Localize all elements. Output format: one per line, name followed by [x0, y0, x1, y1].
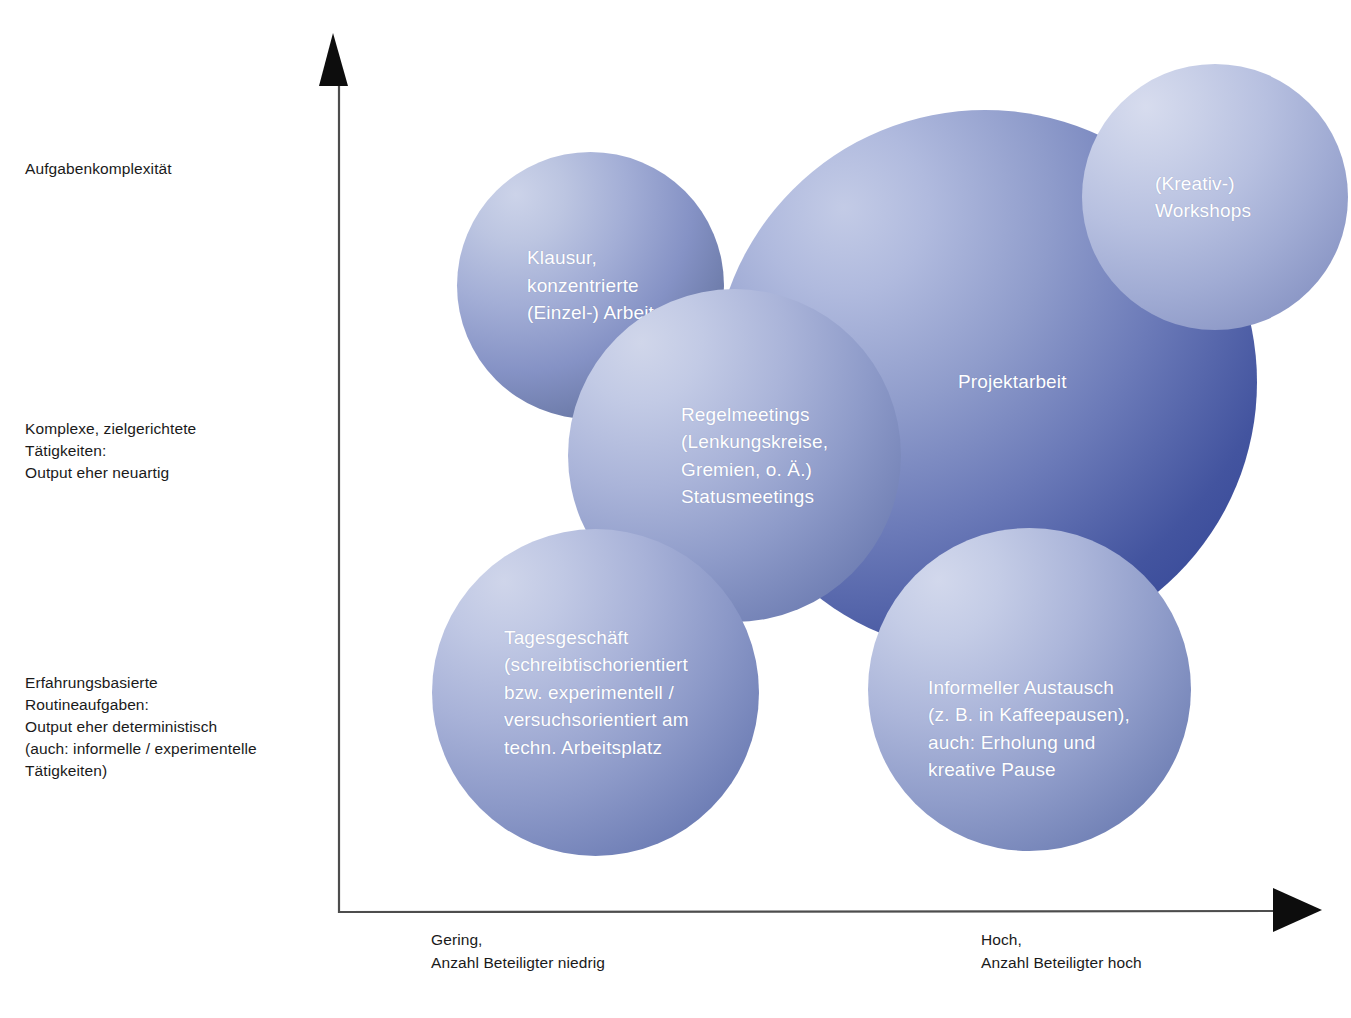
bubble-label-projektarbeit: Projektarbeit: [958, 368, 1067, 396]
x-axis-line: [339, 911, 1285, 912]
y-axis-arrowhead: [319, 33, 348, 86]
bubble-label-workshops: (Kreativ-) Workshops: [1155, 170, 1251, 225]
y-axis-label-top: Aufgabenkomplexität: [25, 158, 325, 180]
bubble-informeller-austausch[interactable]: Informeller Austausch (z. B. in Kaffeepa…: [868, 528, 1191, 851]
x-axis-label-right: Hoch, Anzahl Beteiligter hoch: [981, 928, 1321, 974]
x-axis-arrowhead: [1273, 888, 1322, 932]
bubble-label-regelmeetings: Regelmeetings (Lenkungskreise, Gremien, …: [681, 401, 828, 511]
bubble-label-klausur: Klausur, konzentrierte (Einzel-) Arbeit: [527, 244, 654, 327]
y-axis-label-middle: Komplexe, zielgerichtete Tätigkeiten: Ou…: [25, 418, 325, 484]
bubble-label-tagesgeschaeft: Tagesgeschäft (schreibtischorientiert bz…: [504, 624, 689, 762]
diagram-canvas: Projektarbeit Klausur, konzentrierte (Ei…: [0, 0, 1351, 1018]
bubble-workshops[interactable]: (Kreativ-) Workshops: [1082, 64, 1348, 330]
bubble-label-informeller-austausch: Informeller Austausch (z. B. in Kaffeepa…: [928, 674, 1130, 784]
y-axis-label-bottom: Erfahrungsbasierte Routineaufgaben: Outp…: [25, 672, 345, 782]
bubble-tagesgeschaeft[interactable]: Tagesgeschäft (schreibtischorientiert bz…: [432, 529, 759, 856]
x-axis-label-left: Gering, Anzahl Beteiligter niedrig: [431, 928, 771, 974]
